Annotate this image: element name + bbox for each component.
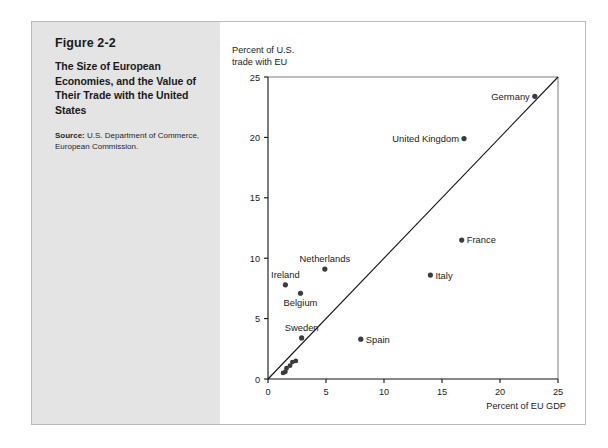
caption-inner: Figure 2-2 The Size of European Economie… (55, 36, 207, 152)
x-tick-label: 25 (553, 387, 563, 397)
data-point-unlabeled (281, 371, 286, 376)
point-label-netherlands: Netherlands (300, 253, 351, 264)
x-tick-label: 5 (323, 387, 328, 397)
point-label-united-kingdom: United Kingdom (392, 133, 459, 144)
caption-panel: Figure 2-2 The Size of European Economie… (32, 22, 220, 424)
y-tick-label: 15 (250, 193, 260, 203)
y-tick-label: 10 (250, 254, 260, 264)
figure-source: Source: U.S. Department of Commerce, Eur… (55, 130, 207, 152)
y-tick-label: 20 (250, 133, 260, 143)
data-point-ireland (283, 282, 288, 287)
x-tick-label: 20 (495, 387, 505, 397)
x-axis-title: Percent of EU GDP (486, 401, 566, 411)
y-axis-title-line2: trade with EU (232, 57, 287, 67)
data-point-france (459, 237, 464, 242)
figure-title: The Size of European Economies, and the … (55, 59, 207, 117)
y-axis-ticks: 0510152025 (250, 73, 268, 385)
figure-root: Figure 2-2 The Size of European Economie… (0, 0, 608, 448)
data-point-labels: GermanyUnited KingdomFranceItalyNetherla… (271, 91, 530, 345)
data-point-united-kingdom (461, 136, 466, 141)
scatter-plot: Percent of U.S. trade with EU 0510152025… (222, 31, 576, 416)
y-tick-label: 5 (255, 314, 260, 324)
figure-number: Figure 2-2 (55, 36, 207, 50)
y-tick-label: 0 (255, 375, 260, 385)
x-tick-label: 0 (265, 387, 270, 397)
point-label-ireland: Ireland (271, 269, 300, 280)
point-label-italy: Italy (435, 270, 453, 281)
y-tick-label: 25 (250, 73, 260, 83)
point-label-germany: Germany (491, 91, 530, 102)
data-point-netherlands (322, 266, 327, 271)
point-label-france: France (467, 234, 496, 245)
data-point-sweden (299, 335, 304, 340)
reference-line-45deg (268, 77, 558, 379)
point-label-sweden: Sweden (285, 322, 319, 333)
point-label-spain: Spain (366, 334, 390, 345)
y-axis-title-line1: Percent of U.S. (232, 45, 294, 55)
x-tick-label: 10 (379, 387, 389, 397)
data-point-belgium (298, 291, 303, 296)
x-tick-label: 15 (437, 387, 447, 397)
x-axis-ticks: 0510152025 (265, 379, 563, 397)
point-label-belgium: Belgium (284, 297, 318, 308)
source-label: Source: (55, 131, 85, 140)
data-point-spain (358, 337, 363, 342)
data-point-germany (532, 94, 537, 99)
chart-panel: Percent of U.S. trade with EU 0510152025… (222, 31, 576, 416)
data-point-italy (428, 273, 433, 278)
